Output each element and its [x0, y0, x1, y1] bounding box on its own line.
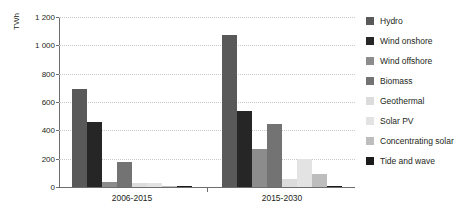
legend-label: Solar PV: [380, 116, 414, 126]
bar[interactable]: [252, 149, 267, 187]
bar[interactable]: [177, 186, 192, 187]
bar[interactable]: [222, 35, 237, 187]
bar[interactable]: [162, 186, 177, 187]
chart-title: in the reference scenario: [60, 0, 320, 1]
legend-label: Tide and wave: [380, 156, 435, 166]
legend-swatch-icon: [366, 77, 374, 85]
legend: HydroWind onshoreWind offshoreBiomassGeo…: [366, 11, 466, 171]
x-tick-label: 2006-2015: [112, 193, 153, 203]
plot-area: 2006-20152015-2030: [59, 17, 355, 188]
legend-item[interactable]: Wind onshore: [366, 31, 466, 51]
bar[interactable]: [327, 186, 342, 187]
y-tick-label: 1 000: [35, 41, 55, 50]
y-tick-mark: [56, 45, 59, 46]
y-tick-label: 800: [42, 69, 55, 78]
y-tick-mark: [56, 130, 59, 131]
bar[interactable]: [72, 89, 87, 187]
legend-swatch-icon: [366, 97, 374, 105]
legend-label: Hydro: [380, 16, 403, 26]
legend-label: Geothermal: [380, 96, 424, 106]
y-tick-label: 0: [51, 183, 55, 192]
bar[interactable]: [147, 183, 162, 187]
legend-label: Wind offshore: [380, 56, 432, 66]
legend-swatch-icon: [366, 37, 374, 45]
y-tick-label: 200: [42, 154, 55, 163]
bar[interactable]: [117, 162, 132, 188]
legend-item[interactable]: Tide and wave: [366, 151, 466, 171]
bar[interactable]: [237, 111, 252, 187]
legend-swatch-icon: [366, 137, 374, 145]
legend-label: Biomass: [380, 76, 413, 86]
y-axis-title: TWh: [12, 13, 21, 30]
y-tick-mark: [56, 159, 59, 160]
legend-swatch-icon: [366, 17, 374, 25]
legend-item[interactable]: Solar PV: [366, 111, 466, 131]
legend-item[interactable]: Geothermal: [366, 91, 466, 111]
legend-label: Wind onshore: [380, 36, 432, 46]
y-tick-label: 600: [42, 98, 55, 107]
bar[interactable]: [267, 124, 282, 187]
legend-label: Concentrating solar: [380, 136, 454, 146]
y-tick-mark: [56, 74, 59, 75]
legend-item[interactable]: Concentrating solar: [366, 131, 466, 151]
bar-group: [222, 17, 342, 187]
y-tick-label: 1 200: [35, 13, 55, 22]
y-tick-mark: [56, 187, 59, 188]
legend-swatch-icon: [366, 57, 374, 65]
bar[interactable]: [282, 179, 297, 188]
legend-item[interactable]: Hydro: [366, 11, 466, 31]
bar[interactable]: [87, 122, 102, 187]
y-tick-mark: [56, 102, 59, 103]
legend-swatch-icon: [366, 117, 374, 125]
x-tick-label: 2015-2030: [262, 193, 303, 203]
legend-item[interactable]: Wind offshore: [366, 51, 466, 71]
bar[interactable]: [102, 182, 117, 187]
y-tick-mark: [56, 17, 59, 18]
legend-item[interactable]: Biomass: [366, 71, 466, 91]
bar[interactable]: [132, 183, 147, 187]
legend-swatch-icon: [366, 157, 374, 165]
bar[interactable]: [297, 159, 312, 187]
x-axis-group-separator: [207, 188, 208, 192]
y-tick-label: 400: [42, 126, 55, 135]
bar-group: [72, 17, 192, 187]
bar[interactable]: [312, 174, 327, 187]
y-axis-tick-labels: 02004006008001 0001 200: [24, 17, 55, 188]
